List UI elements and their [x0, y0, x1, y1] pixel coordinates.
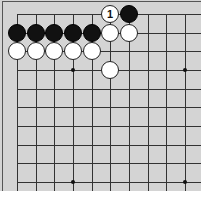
go-board[interactable]: 1 [0, 0, 201, 191]
white-stone[interactable] [101, 24, 119, 42]
star-point [183, 68, 187, 72]
grid-line-vertical [148, 14, 149, 191]
star-point [71, 180, 75, 184]
grid-line-vertical [166, 14, 167, 191]
board-frame-left [2, 1, 3, 191]
board-frame-top [2, 1, 201, 2]
black-stone[interactable] [120, 5, 138, 23]
grid-line-horizontal [17, 163, 201, 164]
grid-line-vertical [185, 14, 186, 191]
black-stone[interactable] [27, 24, 45, 42]
grid-line-horizontal [17, 145, 201, 146]
white-stone[interactable] [27, 42, 45, 60]
black-stone[interactable] [45, 24, 63, 42]
white-stone[interactable] [8, 42, 26, 60]
white-stone[interactable] [64, 42, 82, 60]
black-stone[interactable] [8, 24, 26, 42]
grid-line-horizontal [17, 107, 201, 108]
grid-line-horizontal [17, 182, 201, 183]
grid-line-horizontal [17, 89, 201, 90]
move-number: 1 [107, 8, 113, 20]
star-point [71, 68, 75, 72]
black-stone[interactable] [83, 24, 101, 42]
grid-line-horizontal [17, 126, 201, 127]
white-stone[interactable]: 1 [101, 5, 119, 23]
star-point [183, 180, 187, 184]
white-stone[interactable] [101, 61, 119, 79]
white-stone[interactable] [120, 24, 138, 42]
white-stone[interactable] [83, 42, 101, 60]
black-stone[interactable] [64, 24, 82, 42]
white-stone[interactable] [45, 42, 63, 60]
